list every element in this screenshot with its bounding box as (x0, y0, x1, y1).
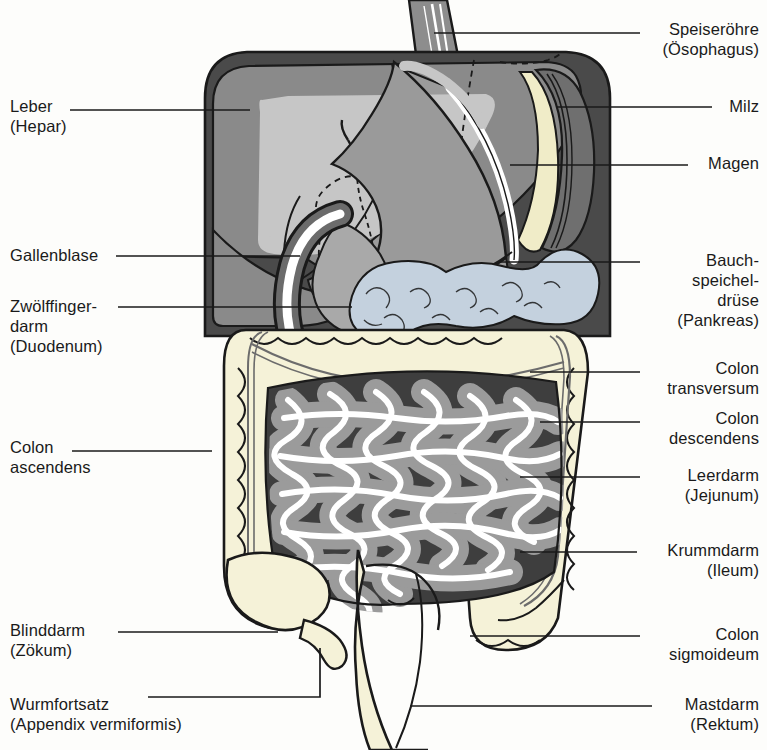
label-mastdarm-line-1: (Rektum) (0, 714, 759, 734)
label-leber-line-1: (Hepar) (10, 116, 67, 136)
label-colon-sigmoideum: Colonsigmoideum (0, 624, 759, 664)
label-leerdarm-line-1: (Jejunum) (0, 485, 759, 505)
label-speiseroehre-line-1: (Ösophagus) (0, 39, 759, 59)
label-speiseroehre: Speiseröhre(Ösophagus) (0, 19, 759, 59)
label-colon-transversum: Colontransversum (0, 358, 759, 398)
label-leerdarm: Leerdarm(Jejunum) (0, 465, 759, 505)
label-magen: Magen (0, 153, 759, 173)
label-colon-descendens-line-0: Colon (0, 408, 759, 428)
label-zwoelffingerdarm-line-2: (Duodenum) (10, 336, 103, 356)
label-pankreas: Bauch-speichel-drüse(Pankreas) (0, 250, 759, 330)
label-pankreas-line-1: speichel- (0, 270, 759, 290)
label-colon-descendens: Colondescendens (0, 408, 759, 448)
label-colon-descendens-line-1: descendens (0, 428, 759, 448)
label-colon-sigmoideum-line-0: Colon (0, 624, 759, 644)
label-pankreas-line-0: Bauch- (0, 250, 759, 270)
label-krummdarm-line-0: Krummdarm (0, 540, 759, 560)
diagram-canvas: Leber(Hepar)GallenblaseZwölffinger-darm(… (0, 0, 767, 750)
label-mastdarm-line-0: Mastdarm (0, 694, 759, 714)
label-magen-line-0: Magen (0, 153, 759, 173)
label-colon-transversum-line-0: Colon (0, 358, 759, 378)
label-milz-line-0: Milz (0, 96, 759, 116)
label-milz: Milz (0, 96, 759, 116)
label-speiseroehre-line-0: Speiseröhre (0, 19, 759, 39)
label-pankreas-line-3: (Pankreas) (0, 310, 759, 330)
label-krummdarm-line-1: (Ileum) (0, 560, 759, 580)
label-pankreas-line-2: drüse (0, 290, 759, 310)
label-krummdarm: Krummdarm(Ileum) (0, 540, 759, 580)
label-colon-sigmoideum-line-1: sigmoideum (0, 644, 759, 664)
label-colon-transversum-line-1: transversum (0, 378, 759, 398)
label-leerdarm-line-0: Leerdarm (0, 465, 759, 485)
label-mastdarm: Mastdarm(Rektum) (0, 694, 759, 734)
